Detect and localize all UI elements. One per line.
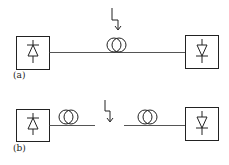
lightning-arrow-icon (112, 8, 121, 30)
transmitter-box-b (17, 110, 50, 142)
photodiode-icon (196, 39, 208, 63)
panel-label-b: (b) (13, 143, 26, 153)
laser-diode-icon (27, 113, 39, 135)
fiber-coil-icon (107, 38, 126, 52)
receiver-box-b (186, 108, 219, 141)
diagram-canvas (0, 0, 229, 165)
panel-b (17, 100, 219, 142)
panel-a (17, 8, 219, 70)
fiber-coil-icon (59, 110, 78, 124)
fiber-coil-icon (138, 110, 157, 124)
panel-label-a: (a) (13, 70, 25, 80)
transmitter-box-a (17, 37, 50, 70)
laser-diode-icon (27, 40, 39, 63)
lightning-arrow-icon (105, 100, 113, 122)
photodiode-icon (196, 111, 208, 135)
receiver-box-a (186, 36, 219, 69)
